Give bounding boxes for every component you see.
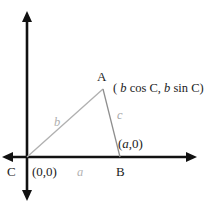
vertex-label-a: A [97, 70, 106, 83]
x-axis-arrow-right [186, 152, 197, 162]
y-axis-arrow-down [22, 190, 32, 201]
geometry-figure: A B C (0,0) ( b cos C, b sin C) (a,0) a … [0, 0, 216, 207]
side-label-c: c [117, 109, 123, 122]
origin-coordinate-label: (0,0) [32, 165, 57, 178]
coord-cos-c: cos C, [127, 81, 165, 95]
vertex-label-b: B [116, 165, 125, 178]
triangle-side-b [27, 89, 103, 157]
y-axis-arrow-up [22, 11, 32, 22]
vertex-label-c: C [7, 165, 16, 178]
side-label-a: a [77, 166, 83, 179]
coord-sin-c: sin C) [170, 81, 203, 95]
side-label-b: b [54, 116, 60, 129]
y-axis [22, 11, 32, 201]
vertex-a-coordinate-label: ( b cos C, b sin C) [113, 82, 204, 95]
vertex-b-coordinate-label: (a,0) [118, 137, 143, 150]
coord-zero-close: ,0) [129, 136, 143, 151]
x-axis-arrow-left [2, 152, 13, 162]
